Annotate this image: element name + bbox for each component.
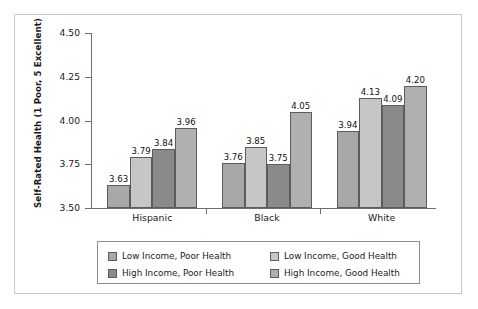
- bar: [382, 105, 405, 208]
- y-tick-mark: [85, 77, 91, 78]
- legend-item[interactable]: High Income, Good Health: [270, 266, 400, 280]
- y-tick-mark: [85, 164, 91, 165]
- x-category-label: Hispanic: [87, 212, 217, 223]
- legend-item[interactable]: Low Income, Poor Health: [108, 249, 231, 263]
- bar: [130, 157, 153, 208]
- bar: [337, 131, 360, 208]
- bar: [404, 86, 427, 209]
- x-category-label: White: [317, 212, 447, 223]
- y-axis-title: Self-Rated Health (1 Poor, 5 Excellent): [33, 13, 43, 213]
- legend-swatch: [270, 269, 279, 278]
- bar: [175, 128, 198, 209]
- legend-swatch: [108, 269, 117, 278]
- x-axis-line: [91, 208, 436, 209]
- legend-label: Low Income, Poor Health: [122, 251, 231, 261]
- legend-label: Low Income, Good Health: [284, 251, 397, 261]
- chart-figure: Self-Rated Health (1 Poor, 5 Excellent) …: [0, 0, 478, 309]
- bar-value-label: 4.20: [400, 75, 431, 85]
- bar-value-label: 3.85: [241, 136, 272, 146]
- bar: [222, 163, 245, 209]
- bar: [107, 185, 130, 208]
- y-tick-mark: [85, 208, 91, 209]
- y-tick-label: 4.25: [46, 71, 80, 82]
- x-category-label: Black: [202, 212, 332, 223]
- bar: [290, 112, 313, 208]
- chart-legend: Low Income, Poor HealthLow Income, Good …: [97, 241, 420, 284]
- legend-label: High Income, Good Health: [284, 268, 400, 278]
- bar-value-label: 3.96: [171, 117, 202, 127]
- legend-swatch: [270, 252, 279, 261]
- y-tick-label: 3.50: [46, 202, 80, 213]
- bar-value-label: 4.05: [286, 101, 317, 111]
- legend-item[interactable]: High Income, Poor Health: [108, 266, 234, 280]
- bar: [267, 164, 290, 208]
- y-tick-mark: [85, 33, 91, 34]
- y-tick-label: 4.00: [46, 115, 80, 126]
- bar: [359, 98, 382, 208]
- bar: [152, 149, 175, 209]
- legend-item[interactable]: Low Income, Good Health: [270, 249, 397, 263]
- y-axis-line: [91, 33, 92, 209]
- y-tick-label: 3.75: [46, 158, 80, 169]
- legend-label: High Income, Poor Health: [122, 268, 234, 278]
- y-tick-label: 4.50: [46, 27, 80, 38]
- y-tick-mark: [85, 121, 91, 122]
- legend-swatch: [108, 252, 117, 261]
